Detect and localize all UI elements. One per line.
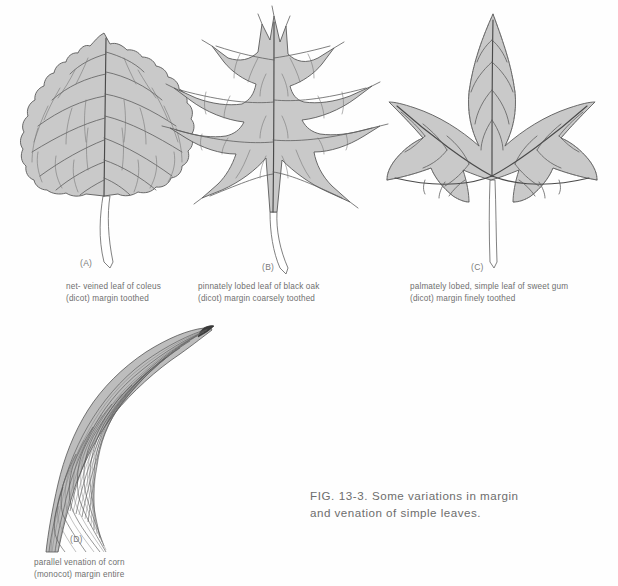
panel-letter-a: (A) [80, 258, 92, 268]
caption-sweet-gum-line1: palmately lobed, simple leaf of sweet gu… [410, 281, 568, 293]
figure-page: (A) net- veined leaf of coleus (dicot) m… [0, 0, 618, 586]
figure-number: FIG. 13-3. [310, 489, 368, 502]
blade-outline [170, 16, 380, 212]
caption-black-oak-line1: pinnately lobed leaf of black oak [198, 281, 319, 293]
caption-sweet-gum-line2: (dicot) margin finely toothed [410, 293, 568, 305]
caption-corn: parallel venation of corn (monocot) marg… [34, 557, 125, 580]
panel-letter-c: (C) [471, 262, 484, 272]
panel-letter-b: (B) [262, 262, 274, 272]
caption-black-oak-line2: (dicot) margin coarsely toothed [198, 293, 319, 305]
caption-sweet-gum: palmately lobed, simple leaf of sweet gu… [410, 281, 568, 304]
petiole-shape [100, 196, 113, 268]
caption-corn-line2: (monocot) margin entire [34, 569, 125, 581]
leaf-illustration-black-oak [170, 0, 380, 290]
petiole-shape [489, 180, 497, 268]
figure-caption: FIG. 13-3. Some variations in margin and… [310, 487, 540, 521]
leaf-illustration-corn [18, 312, 238, 562]
leaf-illustration-sweet-gum [385, 0, 600, 290]
panel-letter-d: (D) [70, 534, 83, 544]
caption-coleus: net- veined leaf of coleus (dicot) margi… [66, 281, 161, 304]
caption-coleus-line1: net- veined leaf of coleus [66, 281, 161, 293]
caption-coleus-line2: (dicot) margin toothed [66, 293, 161, 305]
caption-black-oak: pinnately lobed leaf of black oak (dicot… [198, 281, 319, 304]
caption-corn-line1: parallel venation of corn [34, 557, 125, 569]
